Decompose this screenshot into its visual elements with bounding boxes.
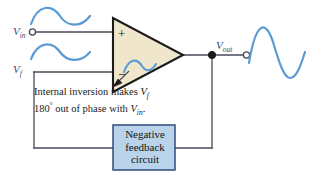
terminal-vout [243,52,249,58]
label-vf: Vf [13,64,22,78]
annotation-line-2: 180° out of phase with Vin. [34,99,145,119]
junction-dot-output [208,51,215,58]
opamp-plus-input-sign: + [118,27,125,40]
circuit-diagram-figure: Vin Vf Vout + − Internal inversion makes… [0,0,317,173]
input-waveform-vin [31,8,90,25]
label-vin: Vin [13,26,26,40]
opamp-minus-input-sign: − [118,68,125,81]
terminal-vin [29,29,35,35]
feedback-box-line-2: feedback [113,141,177,154]
label-vout: Vout [216,40,232,54]
output-waveform-vout [249,27,305,78]
feedback-box-line-1: Negative [113,128,177,141]
feedback-waveform-vf [31,44,90,59]
feedback-box-label: Negative feedback circuit [113,128,177,166]
feedback-box-line-3: circuit [113,153,177,166]
